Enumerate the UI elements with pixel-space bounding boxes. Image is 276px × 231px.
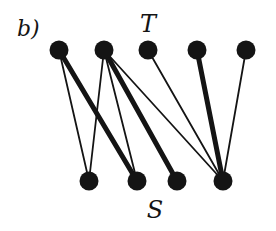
edge-t2-s2 [104,50,137,181]
edge-t1-s1 [59,50,89,181]
node-s3 [168,172,187,191]
edge-t2-s3 [104,50,177,181]
node-t3 [139,41,158,60]
node-s4 [214,172,233,191]
top-set-label-t: T [140,10,158,38]
node-t4 [188,41,207,60]
bipartite-graph-diagram: b) T S [0,0,276,231]
edge-t4-s4 [197,50,223,181]
node-s2 [128,172,147,191]
bottom-set-label-s: S [147,196,163,224]
edge-t1-s2 [59,50,137,181]
edge-group [59,50,246,181]
node-t2 [95,41,114,60]
edge-t5-s4 [223,50,246,181]
node-t1 [50,41,69,60]
panel-label: b) [17,16,40,41]
edge-t2-s1 [89,50,104,181]
node-t5 [237,41,256,60]
node-s1 [80,172,99,191]
